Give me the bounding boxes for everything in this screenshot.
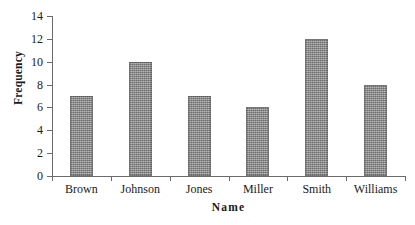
x-tick-label: Smith: [287, 181, 346, 197]
bar-brown: [70, 96, 93, 176]
x-tick-label: Williams: [346, 181, 405, 197]
y-tick-label: 10: [31, 54, 43, 70]
x-tick-label: Johnson: [111, 181, 170, 197]
y-tick-label: 0: [37, 168, 43, 184]
y-tick-label: 12: [31, 31, 43, 47]
y-axis-title: Frequency: [9, 0, 27, 158]
bar-smith: [305, 39, 328, 176]
plot-area: [52, 16, 405, 176]
y-axis-tick: 6: [0, 107, 52, 108]
bar-jones: [188, 96, 211, 176]
y-axis-tick: 2: [0, 153, 52, 154]
y-tick-label: 6: [37, 99, 43, 115]
y-tick-label: 2: [37, 145, 43, 161]
x-tick-label: Jones: [170, 181, 229, 197]
x-tick-label: Brown: [52, 181, 111, 197]
y-axis-tick: 14: [0, 16, 52, 17]
y-axis-tick: 4: [0, 130, 52, 131]
bar-chart: Frequency 02468101214 BrownJohnsonJonesM…: [0, 0, 415, 225]
y-tick-label: 4: [37, 122, 43, 138]
x-axis-title: Name: [52, 201, 405, 213]
bar-miller: [246, 107, 269, 176]
y-axis-tick: 10: [0, 62, 52, 63]
x-tick-label: Miller: [229, 181, 288, 197]
y-tick-label: 8: [37, 77, 43, 93]
y-tick-label: 14: [31, 8, 43, 24]
x-tick-mark: [405, 176, 406, 181]
y-axis-tick: 8: [0, 85, 52, 86]
y-axis-tick: 0: [0, 176, 52, 177]
bar-williams: [364, 85, 387, 176]
bar-johnson: [129, 62, 152, 176]
y-axis-tick: 12: [0, 39, 52, 40]
